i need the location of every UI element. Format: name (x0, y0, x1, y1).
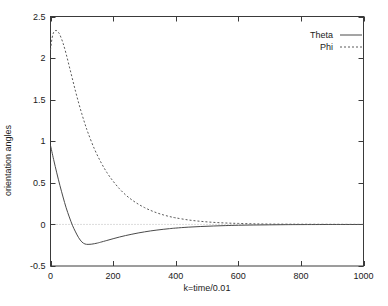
x-tick-label: 0 (48, 271, 53, 281)
y-tick-label: 0 (40, 220, 45, 230)
legend-label-theta: Theta (310, 30, 333, 40)
x-tick-label: 400 (168, 271, 183, 281)
legend-label-phi: Phi (320, 42, 333, 52)
line-chart: -0.500.511.522.5 02004006008001000 orien… (0, 0, 388, 306)
x-tick-label: 200 (106, 271, 121, 281)
x-tick-label: 1000 (353, 271, 373, 281)
x-tick-label: 600 (231, 271, 246, 281)
y-tick-label: -0.5 (30, 261, 46, 271)
y-tick-label: 1.5 (33, 95, 46, 105)
y-tick-label: 1 (40, 136, 45, 146)
y-axis-title: orientation angles (3, 124, 13, 196)
x-tick-label: 800 (293, 271, 308, 281)
x-axis-title: k=time/0.01 (184, 283, 231, 293)
y-tick-label: 0.5 (33, 178, 46, 188)
y-tick-label: 2 (40, 53, 45, 63)
y-tick-label: 2.5 (33, 12, 46, 22)
chart-container: -0.500.511.522.5 02004006008001000 orien… (0, 0, 388, 306)
